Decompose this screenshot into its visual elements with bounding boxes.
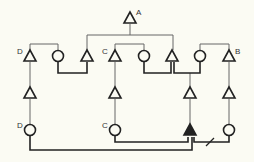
filled-triangle-node-icon <box>184 124 196 135</box>
circle-node-icon <box>25 125 36 136</box>
marriage-circle-tri-mid <box>144 61 171 73</box>
triangle-node-icon <box>223 87 235 98</box>
triangle-node-icon <box>81 50 93 61</box>
triangle-node-icon <box>109 50 121 61</box>
triangle-node-icon <box>24 87 36 98</box>
bracket-D-circle <box>30 44 58 51</box>
node-label-d: D <box>17 48 23 56</box>
node-label-c: C <box>102 48 108 56</box>
bracket-C-circle <box>115 44 144 51</box>
node-label-c: C <box>102 122 108 130</box>
triangle-node-icon <box>184 87 196 98</box>
line-C-bottom <box>115 135 188 142</box>
triangle-node-icon <box>166 50 178 61</box>
pedigree-diagram <box>0 0 254 162</box>
circle-node-icon <box>139 51 150 62</box>
circle-node-icon <box>195 51 206 62</box>
triangle-node-icon <box>109 87 121 98</box>
node-label-a: A <box>136 9 141 17</box>
connector-lines <box>30 24 229 125</box>
circle-node-icon <box>53 51 64 62</box>
node-label-d: D <box>17 122 23 130</box>
marriage-tri-circle-right <box>174 61 200 73</box>
circle-node-icon <box>224 125 235 136</box>
line-A-descent <box>87 24 173 50</box>
circle-node-icon <box>110 125 121 136</box>
node-label-b: B <box>235 48 240 56</box>
marriage-lines <box>30 61 229 150</box>
bracket-circle-B <box>200 44 229 51</box>
triangle-node-icon <box>124 12 136 23</box>
triangle-node-icon <box>223 50 235 61</box>
marriage-circle-tri-left <box>58 61 87 73</box>
triangle-node-icon <box>24 50 36 61</box>
